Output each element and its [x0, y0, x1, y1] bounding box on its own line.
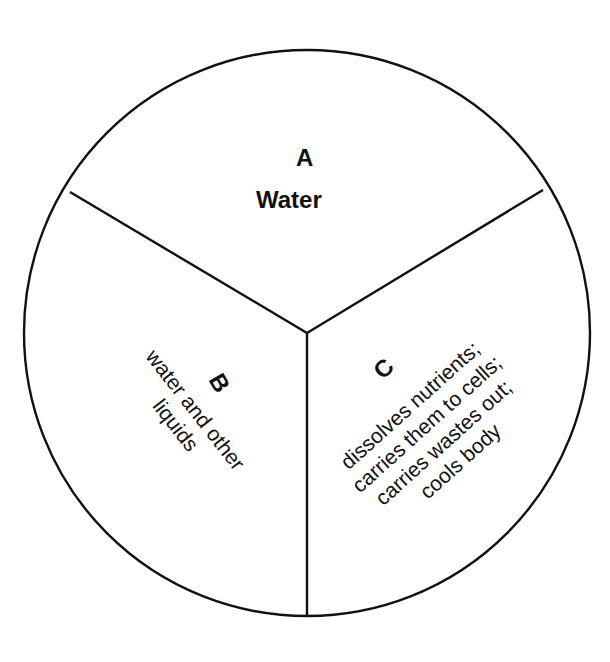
sector-a-text: Water: [256, 186, 322, 214]
nutrient-circle-diagram: A Water B water and other liquids C diss…: [0, 0, 610, 662]
divider-right: [307, 190, 543, 333]
circle-graphic: [0, 0, 610, 662]
sector-a-letter: A: [296, 144, 313, 172]
